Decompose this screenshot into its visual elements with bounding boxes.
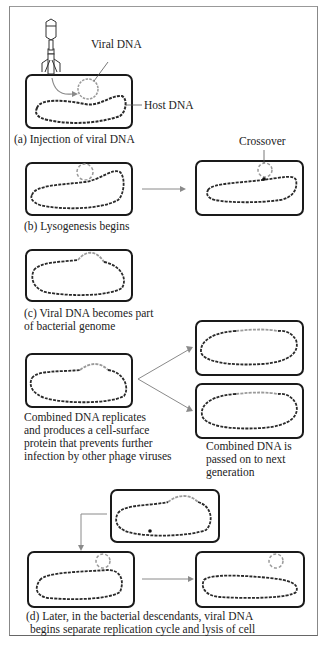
- caption-d-line2: begins separate replication cycle and ly…: [30, 623, 255, 636]
- caption-d-line1: (d) Later, in the bacterial descendants,…: [26, 610, 253, 623]
- panel-d-drawing: [0, 0, 324, 647]
